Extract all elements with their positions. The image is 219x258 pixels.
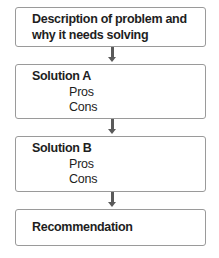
problem-description-box: Description of problem and why it needs …: [15, 7, 206, 47]
solution-a-pros: Pros: [69, 85, 94, 99]
problem-title-line2: why it needs solving: [32, 28, 148, 43]
solution-b-pros: Pros: [69, 157, 94, 171]
arrow-down-icon: [108, 47, 116, 63]
solution-b-box: Solution B Pros Cons: [15, 136, 206, 192]
recommendation-box: Recommendation: [15, 209, 206, 246]
solution-a-box: Solution A Pros Cons: [15, 64, 206, 119]
recommendation-title: Recommendation: [32, 220, 133, 235]
solution-a-cons: Cons: [69, 100, 97, 114]
solution-b-cons: Cons: [69, 172, 97, 186]
problem-title-line1: Description of problem and: [32, 12, 187, 27]
solution-a-title: Solution A: [32, 69, 91, 84]
arrow-down-icon: [108, 119, 116, 135]
arrow-down-icon: [108, 192, 116, 208]
solution-b-title: Solution B: [32, 141, 92, 156]
